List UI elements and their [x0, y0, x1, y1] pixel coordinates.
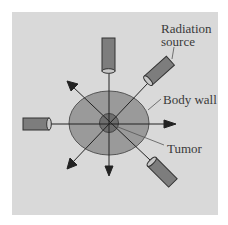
arrow-head-right [164, 120, 176, 128]
radiation-source-upper-right [142, 56, 174, 87]
label-body-wall: Body wall [163, 92, 217, 107]
arrow-head-down [105, 166, 113, 176]
radiation-source-lower-right [146, 156, 177, 187]
label-tumor: Tumor [167, 141, 203, 156]
radiation-diagram: Radiation source Body wall Tumor [0, 0, 228, 225]
leader-body-wall [148, 99, 161, 110]
radiation-source-top [102, 38, 115, 73]
radiation-source-left [23, 118, 51, 130]
label-radiation-source-line2: source [161, 34, 195, 49]
